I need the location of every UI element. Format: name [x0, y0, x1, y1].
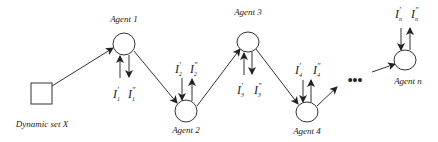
edge-agent2-to-agent3	[197, 49, 240, 106]
edge-agent4-to-ellipsis	[317, 87, 337, 106]
agent-chain-diagram: Dynamic set X Agent 1 I1′ I1″ I2′ I2″ Ag…	[0, 0, 438, 142]
agent-4-input-label: I4′	[294, 62, 302, 78]
edge-agent1-to-agent2	[134, 51, 177, 103]
agent-n-ellipse	[394, 50, 416, 70]
dynamic-set-label: Dynamic set X	[15, 119, 69, 129]
agent-1-ellipse	[113, 33, 135, 55]
agent-n-node: In′ In″ Agent n	[393, 6, 422, 86]
ellipsis-dots: •••	[348, 73, 363, 88]
agent-4-ellipse	[296, 102, 318, 122]
agent-1-node: Agent 1 I1′ I1″	[109, 14, 138, 102]
agent-2-output-label: I2″	[189, 61, 198, 77]
agent-2-label: Agent 2	[171, 125, 200, 135]
agent-2-input-label: I2′	[174, 61, 182, 77]
edge-ellipsis-to-agentn	[372, 64, 395, 72]
agent-n-input-label: In′	[394, 6, 402, 22]
agent-2-node: I2′ I2″ Agent 2	[171, 61, 200, 135]
agent-3-ellipse	[237, 32, 259, 52]
agent-4-node: I4′ I4″ Agent 4	[292, 62, 321, 136]
agent-1-output-label: I1″	[127, 86, 136, 102]
agent-3-label: Agent 3	[233, 7, 262, 17]
edge-agent3-to-agent4	[256, 49, 298, 104]
agent-2-ellipse	[175, 100, 197, 122]
agent-4-label: Agent 4	[292, 126, 321, 136]
chain-edges	[52, 48, 395, 106]
agent-1-label: Agent 1	[109, 14, 138, 24]
dynamic-set-x-node: Dynamic set X	[15, 83, 69, 129]
agent-4-output-label: I4″	[312, 62, 321, 78]
agent-n-output-label: In″	[410, 6, 419, 22]
agent-3-input-label: I3′	[236, 82, 244, 98]
edge-source-to-agent1	[52, 48, 113, 86]
agent-n-label: Agent n	[393, 76, 422, 86]
agent-3-output-label: I3″	[253, 82, 262, 98]
square-shape	[31, 83, 52, 104]
agent-1-input-label: I1′	[112, 86, 120, 102]
